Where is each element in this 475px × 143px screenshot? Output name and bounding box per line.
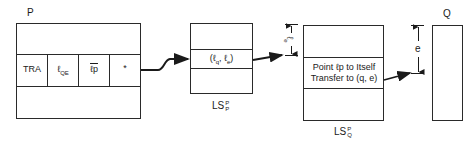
p-field-lqe-sub: QE [60, 70, 69, 76]
ls-q-label-base: LS [334, 126, 346, 137]
ls-p-label-base: LS [212, 100, 224, 111]
ls-p-field-mid: , ℓ [219, 53, 227, 63]
ls-q-offset-sub: e [283, 39, 289, 42]
arrow-lsp-to-lsq [253, 55, 282, 60]
p-field-lqe: ℓQE [48, 65, 78, 74]
p-field-tra: TRA [17, 65, 47, 74]
p-label: P [27, 8, 34, 18]
wavy-arrow-p-to-lsp [141, 59, 188, 70]
q-block [433, 26, 463, 121]
ls-p-field: (ℓq, ℓe) [191, 54, 252, 63]
p-field-lp: ℓp [79, 65, 109, 74]
ls-q-field-line2: Transfer to (q, e) [304, 73, 384, 84]
ls-p-field-close: ) [230, 53, 233, 63]
ls-q-field: Point ℓp to Itself Transfer to (q, e) [304, 62, 384, 84]
ls-p-label-sub: P [225, 106, 229, 112]
p-field-pointer: * [110, 64, 140, 73]
ls-p-label: LSPP [212, 100, 229, 112]
ls-q-label-sub: Q [347, 132, 352, 138]
ls-q-offset-label: ℓe [285, 36, 294, 42]
ls-q-label: LSPQ [334, 126, 352, 138]
q-offset-label: e [415, 44, 421, 54]
ls-q-field-line1: Point ℓp to Itself [304, 62, 384, 73]
p-field-lp-text: ℓp [90, 64, 98, 74]
arrow-lsq-to-q [384, 73, 410, 80]
q-label: Q [443, 9, 451, 19]
